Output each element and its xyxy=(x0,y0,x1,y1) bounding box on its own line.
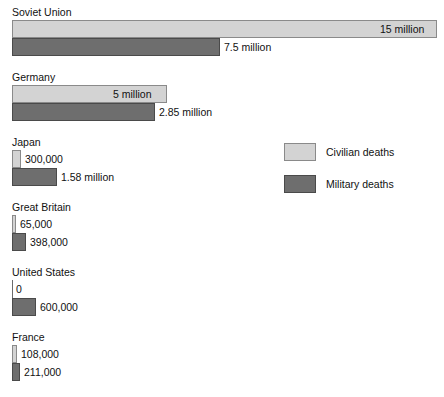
bar-value-military-japan: 1.58 million xyxy=(61,171,114,183)
legend-label-military: Military deaths xyxy=(326,178,394,190)
bar-chart: Soviet Union 15 million 7.5 million Germ… xyxy=(0,0,444,397)
military-swatch-icon xyxy=(284,175,316,193)
bar-value-military-great-britain: 398,000 xyxy=(30,236,68,248)
bar-value-civilian-france: 108,000 xyxy=(21,348,59,360)
bar-value-civilian-united-states: 0 xyxy=(16,283,22,295)
legend-label-civilian: Civilian deaths xyxy=(326,146,394,158)
bar-civilian-france[interactable] xyxy=(12,345,17,363)
bar-civilian-japan[interactable] xyxy=(12,150,21,168)
bar-value-military-united-states: 600,000 xyxy=(40,301,78,313)
group-label-japan: Japan xyxy=(12,136,41,148)
bar-value-civilian-great-britain: 65,000 xyxy=(20,218,52,230)
bar-value-military-soviet-union: 7.5 million xyxy=(224,41,271,53)
group-label-france: France xyxy=(12,331,45,343)
bar-military-germany[interactable] xyxy=(12,103,155,121)
bar-military-united-states[interactable] xyxy=(12,298,36,316)
group-label-great-britain: Great Britain xyxy=(12,201,71,213)
bar-value-civilian-germany: 5 million xyxy=(113,88,152,100)
group-label-united-states: United States xyxy=(12,266,75,278)
bar-value-military-germany: 2.85 million xyxy=(159,106,212,118)
bar-civilian-soviet-union[interactable] xyxy=(12,20,437,38)
bar-value-civilian-japan: 300,000 xyxy=(25,153,63,165)
bar-value-military-france: 211,000 xyxy=(24,366,61,378)
civilian-swatch-icon xyxy=(284,143,316,161)
bar-value-civilian-soviet-union: 15 million xyxy=(380,23,424,35)
bar-military-soviet-union[interactable] xyxy=(12,38,220,56)
bar-military-france[interactable] xyxy=(12,363,20,381)
bar-military-japan[interactable] xyxy=(12,168,57,186)
bar-civilian-great-britain[interactable] xyxy=(12,215,16,233)
group-label-soviet-union: Soviet Union xyxy=(12,6,72,18)
bar-civilian-united-states[interactable] xyxy=(12,280,13,298)
bar-military-great-britain[interactable] xyxy=(12,233,26,251)
group-label-germany: Germany xyxy=(12,71,55,83)
